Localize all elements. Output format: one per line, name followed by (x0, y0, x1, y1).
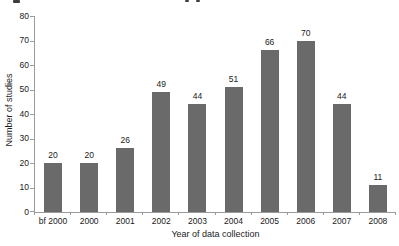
bar (152, 92, 170, 212)
bar-slot: 51 (215, 16, 251, 212)
x-tick-label: 2000 (71, 216, 107, 226)
cropped-title-fragment (13, 0, 20, 3)
x-tick-mark (142, 212, 143, 215)
bar-slot: 49 (143, 16, 179, 212)
bar (44, 163, 62, 212)
bar-slot: 20 (71, 16, 107, 212)
x-tick-label: bf 2000 (35, 216, 71, 226)
y-tick-label: 40 (3, 109, 29, 120)
bar (369, 185, 387, 212)
x-tick-mark (106, 212, 107, 215)
plot-area: 20202649445166704411 bf 2000200020012002… (34, 16, 396, 213)
y-tick-mark (30, 188, 35, 189)
x-tick-label: 2005 (252, 216, 288, 226)
bar (116, 148, 134, 212)
y-tick-label: 70 (3, 35, 29, 46)
bar-slot: 66 (252, 16, 288, 212)
x-tick-mark (323, 212, 324, 215)
bar (261, 50, 279, 212)
x-tick-mark (215, 212, 216, 215)
x-tick-label: 2002 (143, 216, 179, 226)
x-tick-label: 2007 (324, 216, 360, 226)
cropped-title-fragment (196, 0, 200, 2)
bar-slot: 26 (107, 16, 143, 212)
x-tick-mark (178, 212, 179, 215)
bar-value-label: 26 (121, 135, 130, 145)
bar-value-label: 66 (265, 37, 274, 47)
x-tick-label: 2006 (288, 216, 324, 226)
figure-root: Number of studies 20202649445166704411 b… (0, 0, 399, 246)
x-tick-mark (395, 212, 396, 215)
y-tick-label: 10 (3, 182, 29, 193)
y-tick-label: 50 (3, 84, 29, 95)
bar-value-label: 20 (48, 150, 57, 160)
bar-slot: 20 (35, 16, 71, 212)
bar (333, 104, 351, 212)
bar-value-label: 49 (157, 79, 166, 89)
x-tick-label: 2001 (107, 216, 143, 226)
y-tick-label: 60 (3, 60, 29, 71)
x-tick-mark (359, 212, 360, 215)
x-tick-mark (287, 212, 288, 215)
x-tick-label: 2008 (360, 216, 396, 226)
cropped-title-fragment (185, 0, 189, 2)
bar (188, 104, 206, 212)
bar (80, 163, 98, 212)
y-tick-mark (30, 139, 35, 140)
x-axis-title: Year of data collection (35, 229, 396, 239)
bar-value-label: 51 (229, 74, 238, 84)
bar-slot: 44 (179, 16, 215, 212)
bar-value-label: 11 (373, 172, 382, 182)
bar-value-label: 70 (301, 28, 310, 38)
y-tick-mark (30, 41, 35, 42)
bar (297, 41, 315, 213)
y-tick-mark (30, 163, 35, 164)
y-tick-label: 30 (3, 133, 29, 144)
x-tick-mark (34, 212, 35, 215)
y-tick-mark (30, 114, 35, 115)
y-tick-mark (30, 16, 35, 17)
x-tick-label: 2003 (179, 216, 215, 226)
x-tick-mark (251, 212, 252, 215)
bar-slot: 44 (324, 16, 360, 212)
bar-value-label: 44 (337, 91, 346, 101)
bar (225, 87, 243, 212)
x-axis-labels: bf 2000200020012002200320042005200620072… (35, 216, 396, 226)
bar-slot: 70 (288, 16, 324, 212)
x-tick-mark (70, 212, 71, 215)
x-tick-label: 2004 (215, 216, 251, 226)
y-tick-mark (30, 90, 35, 91)
y-tick-label: 80 (3, 11, 29, 22)
y-tick-mark (30, 65, 35, 66)
y-tick-label: 20 (3, 158, 29, 169)
bar-value-label: 44 (193, 91, 202, 101)
bar-value-label: 20 (84, 150, 93, 160)
y-tick-label: 0 (3, 207, 29, 218)
bar-slot: 11 (360, 16, 396, 212)
bar-series: 20202649445166704411 (35, 16, 396, 212)
